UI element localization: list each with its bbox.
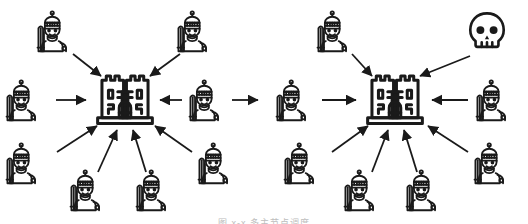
knight-icon [469,140,515,186]
knight-icon [193,140,239,186]
knight-icon [471,77,517,123]
knight-icon [1,77,47,123]
knight-icon [172,8,218,54]
knight-icon [279,140,325,186]
knight-icon [32,8,78,54]
arrow-knight-r-lowright-to-castle-right [428,126,468,152]
knight-icon [65,167,111,213]
skull-icon [465,9,509,53]
figure-canvas: 图 x-x 多主节点调度 [0,0,528,224]
knight-icon [339,167,385,213]
castle-icon [359,63,431,135]
knight-icon [131,167,177,213]
figure-caption: 图 x-x 多主节点调度 [0,216,528,224]
arrow-knight-r-bot1-to-castle-right [372,130,388,172]
knight-icon [271,77,317,123]
arrow-knight-l-bot1-to-castle-left [98,130,117,172]
arrow-knight-r-bot2-to-castle-right [404,130,417,172]
knight-icon [1,140,47,186]
arrow-knight-l-bot2-to-castle-left [133,130,146,172]
knight-icon [184,77,230,123]
knight-icon [401,167,447,213]
knight-icon [312,8,358,54]
castle-icon [89,63,161,135]
